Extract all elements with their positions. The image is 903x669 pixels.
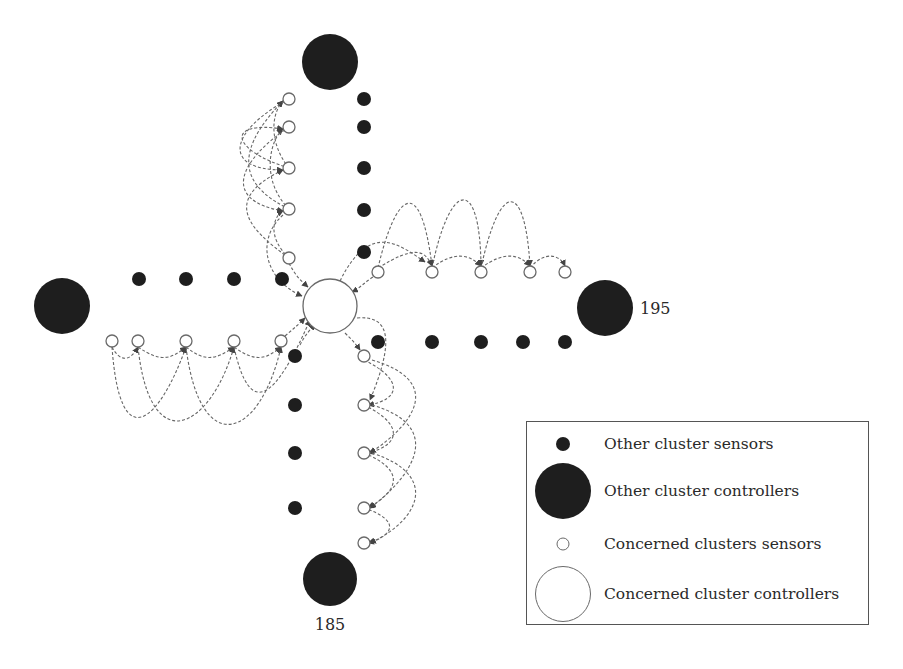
other-cluster-sensor [179,272,193,286]
communication-link-arrow [364,453,393,508]
concerned-cluster-sensor [372,266,384,278]
other-cluster-controller-right [577,280,633,336]
legend-item-concerned-controllers: Concerned cluster controllers [527,594,868,642]
other-cluster-controller-bottom [303,552,357,606]
small-filled-circle-icon [556,437,570,451]
communication-link-arrow [112,347,138,358]
right-controller-label: 195 [640,299,671,318]
concerned-cluster-sensor [358,350,370,362]
communication-link-arrow [247,170,289,258]
small-open-circle-icon [557,538,570,551]
communication-link-arrow [186,347,234,358]
concerned-cluster-sensor [275,335,287,347]
concerned-cluster-controller [303,279,357,333]
concerned-cluster-sensor [283,252,295,264]
concerned-cluster-sensor [358,502,370,514]
legend-item-other-controllers: Other cluster controllers [527,491,868,539]
other-cluster-sensor [132,272,146,286]
communication-link-arrow [289,263,308,287]
concerned-cluster-sensor [283,121,295,133]
communication-link-arrow [378,203,432,268]
legend-label: Other cluster sensors [604,435,774,453]
other-cluster-sensor [288,501,302,515]
concerned-cluster-sensor [180,335,192,347]
communication-link-arrow [432,256,481,268]
communication-link-arrow [364,360,393,405]
large-filled-circle-icon [535,463,591,519]
concerned-cluster-sensor [475,266,487,278]
other-cluster-sensor [357,203,371,217]
communication-link-arrow [364,405,393,453]
other-cluster-sensor [288,398,302,412]
other-cluster-sensor [357,120,371,134]
communication-link-arrow [530,256,565,268]
communication-link-arrow [240,99,289,170]
communication-link-arrow [249,101,289,209]
other-cluster-sensor [288,349,302,363]
other-cluster-sensor [227,272,241,286]
other-cluster-sensor [474,335,488,349]
large-open-circle-icon [535,566,591,622]
concerned-cluster-sensor [283,162,295,174]
communication-link-arrow [370,405,416,508]
concerned-cluster-sensor [559,266,571,278]
concerned-cluster-sensor [358,537,370,549]
communication-link-arrow [138,347,186,358]
concerned-cluster-sensor [524,266,536,278]
legend-label: Other cluster controllers [604,482,799,500]
communication-link-arrow [285,318,305,336]
concerned-cluster-sensor [283,93,295,105]
legend-label: Concerned cluster controllers [604,585,839,603]
legend-label: Concerned clusters sensors [604,535,821,553]
bottom-controller-label: 185 [315,615,346,634]
other-cluster-sensor [516,335,530,349]
other-cluster-sensor [371,335,385,349]
concerned-cluster-sensor [358,399,370,411]
other-cluster-sensor [275,272,289,286]
other-cluster-controller-top [302,34,358,90]
other-cluster-sensor [288,446,302,460]
communication-link-arrow [274,211,289,258]
other-cluster-sensor [357,245,371,259]
concerned-cluster-sensor [358,447,370,459]
communication-link-arrow [481,256,530,268]
communication-link-arrow [274,101,289,168]
other-cluster-sensor [357,92,371,106]
concerned-cluster-sensor [106,335,118,347]
concerned-cluster-sensor [283,203,295,215]
other-cluster-sensor [425,335,439,349]
communication-link-arrow [370,360,416,453]
communication-link-arrow [243,127,289,211]
communication-link-arrow [186,347,281,424]
other-cluster-controller-left [34,278,90,334]
concerned-cluster-sensor [132,335,144,347]
concerned-cluster-sensor [426,266,438,278]
communication-link-arrow [345,333,360,350]
communication-link-arrow [481,202,530,268]
other-cluster-sensor [357,161,371,175]
concerned-cluster-sensor [228,335,240,347]
communication-link-arrow [432,200,481,268]
legend: Other cluster sensors Other cluster cont… [526,421,869,625]
other-cluster-sensor [558,335,572,349]
communication-link-arrow [378,252,432,268]
communication-link-arrow [352,277,373,292]
communication-link-arrow [234,347,281,358]
